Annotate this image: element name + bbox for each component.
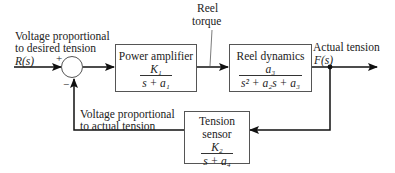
input-signal-label: R(s) xyxy=(15,55,34,68)
output-signal-label: F(s) xyxy=(314,54,333,67)
reel-torque-label-line2: torque xyxy=(192,15,221,28)
minus-sign: − xyxy=(63,79,69,90)
feedback-description-line2: to actual tension xyxy=(80,120,155,133)
reel-torque-label-line1: Reel xyxy=(197,2,218,15)
tension-sensor-transfer-function: K₂ s + a₄ xyxy=(201,141,233,167)
reel-dynamics-block: Reel dynamics a₃ s² + a₂s + a₃ xyxy=(229,44,312,92)
tension-sensor-denominator: s + a₄ xyxy=(201,153,233,167)
tension-sensor-numerator: K₂ xyxy=(201,141,233,153)
reel-dynamics-denominator: s² + a₂s + a₃ xyxy=(239,75,302,89)
tension-sensor-block: Tension sensor K₂ s + a₄ xyxy=(184,111,250,164)
power-amplifier-title: Power amplifier xyxy=(116,50,196,63)
power-amplifier-numerator: K₁ xyxy=(140,63,172,75)
power-amplifier-denominator: s + a₁ xyxy=(140,75,172,89)
power-amplifier-transfer-function: K₁ s + a₁ xyxy=(140,63,172,89)
tension-sensor-title-line2: sensor xyxy=(185,128,249,141)
power-amplifier-block: Power amplifier K₁ s + a₁ xyxy=(115,44,197,92)
reel-dynamics-numerator: a₃ xyxy=(239,63,302,75)
output-description: Actual tension xyxy=(313,41,380,54)
reel-torque-leader xyxy=(210,30,212,66)
tension-sensor-title-line1: Tension xyxy=(185,115,249,128)
summing-junction xyxy=(62,57,83,78)
reel-dynamics-transfer-function: a₃ s² + a₂s + a₃ xyxy=(239,63,302,89)
reel-dynamics-title: Reel dynamics xyxy=(230,50,311,63)
plus-sign: + xyxy=(56,53,62,64)
